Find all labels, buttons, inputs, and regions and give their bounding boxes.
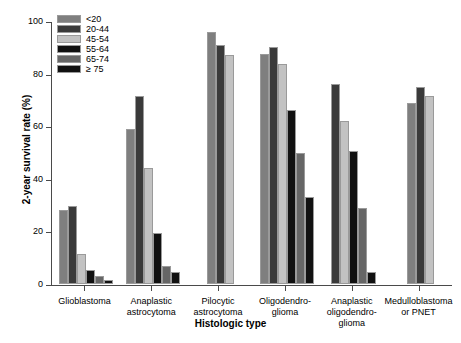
bar [162,266,171,284]
x-axis-title: Histologic type [0,318,461,329]
bar-group [260,21,314,284]
bar [358,208,367,284]
y-tick: 100 [46,22,51,23]
y-tick-label: 0 [38,279,43,290]
legend-swatch [57,15,81,23]
y-tick: 80 [46,75,51,76]
x-tick [419,286,420,291]
bar [153,233,162,284]
bar [104,280,113,284]
x-category-label-line: or PNET [374,307,461,318]
x-tick [84,286,85,291]
y-tick: 60 [46,127,51,128]
legend-item[interactable]: <20 [57,14,135,24]
bar-group [207,21,234,284]
y-tick-label: 100 [28,16,43,27]
bar [126,129,135,284]
y-tick-label: 60 [33,121,43,132]
legend-label: ≥ 75 [86,64,103,74]
bar [349,151,358,284]
y-tick-label: 80 [33,69,43,80]
y-tick: 40 [46,180,51,181]
y-tick: 20 [46,232,51,233]
bar [77,254,86,284]
bar-group [331,21,376,284]
bar [216,45,225,284]
y-tick-label: 20 [33,226,43,237]
bar [331,84,340,284]
bar [59,210,68,284]
bar [171,272,180,284]
legend-item[interactable]: ≥ 75 [57,64,135,74]
bar [68,206,77,284]
legend-swatch [57,35,81,43]
legend-swatch [57,55,81,63]
legend: <2020-4445-5455-6465-74≥ 75 [57,14,135,74]
bar [367,272,376,284]
legend-label: 65-74 [86,54,109,64]
bar-group [407,21,434,284]
y-axis-line [51,22,52,286]
bar [287,110,296,284]
legend-label: 55-64 [86,44,109,54]
x-tick [352,286,353,291]
legend-label: <20 [86,14,101,24]
bar [305,197,314,284]
legend-swatch [57,45,81,53]
y-tick-label: 40 [33,174,43,185]
bar [416,87,425,284]
bar [340,121,349,284]
legend-swatch [57,65,81,73]
survival-rate-bar-chart: 2-year survival rate (%) 020406080100 Gl… [0,0,461,343]
bar [207,32,216,284]
x-tick [218,286,219,291]
bar [260,54,269,284]
x-category-label-line: Medulloblastoma [374,296,461,307]
legend-label: 20-44 [86,24,109,34]
bar [144,168,153,284]
legend-item[interactable]: 55-64 [57,44,135,54]
x-category-label: Medulloblastomaor PNET [374,296,461,318]
legend-swatch [57,25,81,33]
bar [269,47,278,284]
x-tick [285,286,286,291]
bar [407,103,416,284]
y-tick: 0 [46,285,51,286]
x-tick [151,286,152,291]
bar [95,276,104,284]
bar [296,153,305,285]
x-axis-line [51,285,452,286]
bar [225,55,234,284]
bar [425,96,434,284]
legend-item[interactable]: 65-74 [57,54,135,64]
bar [135,96,144,284]
legend-item[interactable]: 20-44 [57,24,135,34]
bar [86,270,95,284]
y-axis-title: 2-year survival rate (%) [21,50,32,250]
legend-label: 45-54 [86,34,109,44]
legend-item[interactable]: 45-54 [57,34,135,44]
bar [278,64,287,284]
